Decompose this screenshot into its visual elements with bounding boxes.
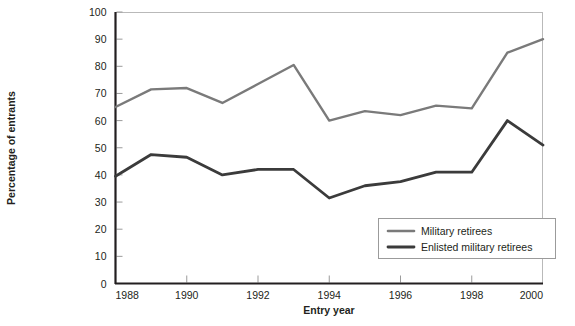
y-tick-label: 30	[95, 196, 107, 208]
x-tick-label: 1996	[389, 289, 413, 301]
x-tick-label: 1998	[460, 289, 484, 301]
series-line-enlisted-military-retirees	[116, 121, 544, 198]
x-tick-label: 1992	[246, 289, 270, 301]
y-tick-label: 50	[95, 142, 107, 154]
x-tick-label: 1994	[318, 289, 342, 301]
y-tick-label: 20	[95, 223, 107, 235]
chart-canvas: 0102030405060708090100 19881990199219941…	[0, 0, 575, 326]
x-axis-ticks: 1988199019921994199619982000	[116, 276, 544, 301]
x-tick-label: 1990	[175, 289, 199, 301]
line-chart: 0102030405060708090100 19881990199219941…	[0, 0, 575, 326]
series-lines	[116, 39, 544, 198]
y-tick-label: 90	[95, 33, 107, 45]
y-tick-label: 10	[95, 250, 107, 262]
y-tick-label: 100	[89, 6, 107, 18]
x-axis-title: Entry year	[303, 304, 354, 316]
y-tick-label: 40	[95, 169, 107, 181]
legend-label-military-retirees: Military retirees	[421, 225, 492, 237]
chart-legend[interactable]: Military retirees Enlisted military reti…	[379, 219, 556, 259]
y-tick-label: 60	[95, 115, 107, 127]
y-axis-ticks: 0102030405060708090100	[89, 6, 123, 290]
x-tick-label: 2000	[520, 289, 544, 301]
y-axis-title: Percentage of entrants	[5, 91, 17, 205]
y-tick-label: 70	[95, 87, 107, 99]
y-tick-label: 0	[101, 278, 107, 290]
x-tick-label: 1988	[116, 289, 140, 301]
legend-label-enlisted-military-retirees: Enlisted military retirees	[421, 241, 532, 253]
y-tick-label: 80	[95, 60, 107, 72]
series-line-military-retirees	[116, 39, 544, 120]
